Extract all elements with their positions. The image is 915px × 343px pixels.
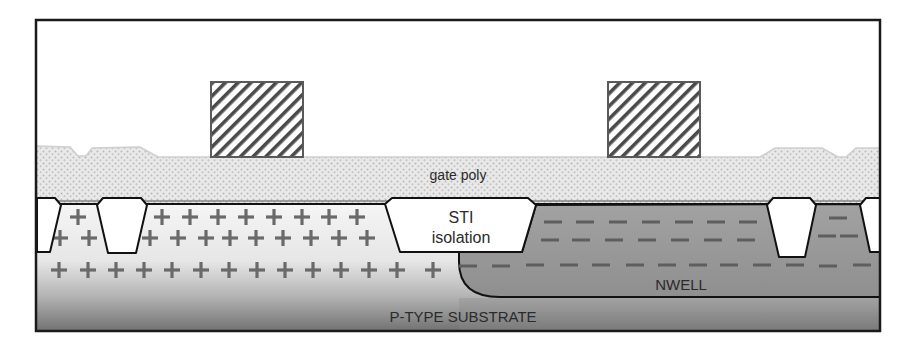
- minus-marker: [739, 221, 757, 224]
- minus-marker: [689, 264, 707, 267]
- minus-marker: [707, 221, 725, 224]
- minus-marker: [819, 265, 837, 268]
- minus-marker: [818, 235, 836, 238]
- minus-marker: [853, 264, 871, 267]
- minus-marker: [638, 239, 656, 242]
- minus-marker: [459, 265, 477, 268]
- minus-marker: [605, 239, 623, 242]
- minus-marker: [544, 221, 562, 224]
- minus-marker: [526, 264, 544, 267]
- minus-marker: [492, 265, 510, 268]
- minus-marker: [786, 264, 804, 267]
- minus-marker: [560, 264, 578, 267]
- minus-marker: [541, 239, 559, 242]
- minus-marker: [572, 239, 590, 242]
- gate-right: [608, 82, 700, 157]
- sti-label-line2: isolation: [432, 229, 491, 246]
- minus-marker: [675, 221, 693, 224]
- minus-marker: [737, 239, 755, 242]
- minus-marker: [720, 264, 738, 267]
- minus-marker: [704, 239, 722, 242]
- minus-marker: [609, 221, 627, 224]
- minus-marker: [753, 264, 771, 267]
- sti-label-line1: STI: [449, 209, 474, 226]
- minus-marker: [592, 264, 610, 267]
- gate-left: [211, 82, 303, 157]
- minus-marker: [829, 217, 847, 220]
- minus-marker: [840, 235, 858, 238]
- gate-poly-label: gate poly: [430, 167, 487, 183]
- substrate-label: P-TYPE SUBSTRATE: [389, 308, 536, 325]
- minus-marker: [642, 221, 660, 224]
- minus-marker: [671, 239, 689, 242]
- minus-marker: [626, 264, 644, 267]
- nwell-label: NWELL: [655, 276, 707, 293]
- minus-marker: [576, 221, 594, 224]
- cmos-cross-section-diagram: gate poly STI isolation NWELL P-TYPE SUB…: [0, 0, 915, 343]
- minus-marker: [658, 264, 676, 267]
